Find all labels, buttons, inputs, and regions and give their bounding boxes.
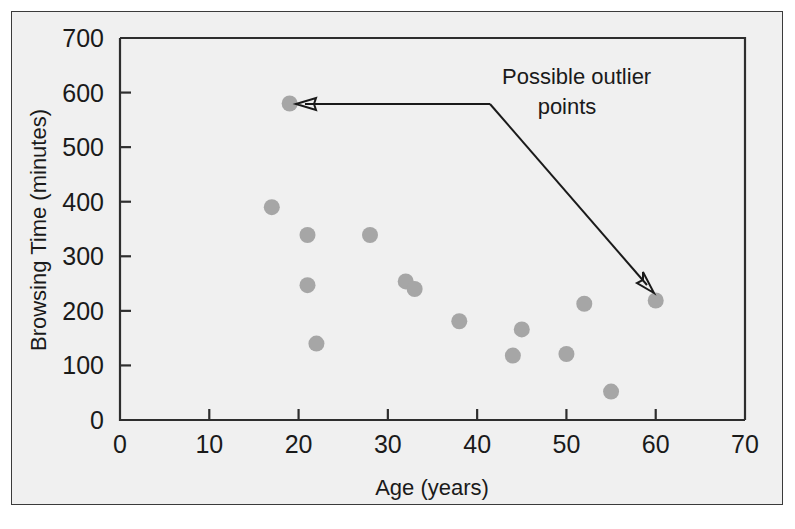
data-points-group [264, 95, 664, 399]
annotation-text-line1: Possible outlier [502, 64, 651, 89]
y-tick-label: 400 [62, 188, 104, 216]
y-axis-tick-marks [120, 93, 131, 366]
x-tick-label: 60 [642, 430, 670, 458]
y-axis-tick-labels: 0100200300400500600700 [62, 24, 104, 434]
x-tick-label: 0 [113, 430, 127, 458]
x-tick-label: 70 [731, 430, 759, 458]
y-tick-label: 0 [90, 406, 104, 434]
y-tick-label: 700 [62, 24, 104, 52]
y-axis-title: Browsing Time (minutes) [26, 109, 51, 351]
y-tick-label: 600 [62, 79, 104, 107]
x-tick-label: 50 [553, 430, 581, 458]
data-point [558, 346, 574, 362]
x-axis-tick-marks [209, 409, 655, 420]
data-point [514, 321, 530, 337]
figure-container: 0100200300400500600700 010203040506070 B… [0, 0, 795, 529]
annotation-leader-lines [296, 98, 654, 293]
x-tick-label: 20 [285, 430, 313, 458]
data-point [576, 296, 592, 312]
data-point [603, 384, 619, 400]
leader-line-to-right-outlier [490, 104, 647, 285]
data-point [264, 199, 280, 215]
data-point [300, 277, 316, 293]
axis-lines [120, 38, 745, 420]
x-tick-label: 10 [195, 430, 223, 458]
y-tick-label: 300 [62, 242, 104, 270]
data-point [407, 281, 423, 297]
annotation-text-line2: points [538, 94, 597, 119]
x-axis-title: Age (years) [375, 475, 489, 500]
y-tick-label: 500 [62, 133, 104, 161]
x-tick-label: 30 [374, 430, 402, 458]
plot-frame-top-right [120, 38, 745, 420]
x-tick-label: 40 [463, 430, 491, 458]
y-tick-label: 200 [62, 297, 104, 325]
data-point [362, 227, 378, 243]
data-point [505, 348, 521, 364]
y-tick-label: 100 [62, 351, 104, 379]
data-point [300, 227, 316, 243]
data-point [451, 313, 467, 329]
data-point [308, 336, 324, 352]
axes-group [120, 38, 745, 420]
x-axis-tick-labels: 010203040506070 [113, 430, 759, 458]
scatter-chart: 0100200300400500600700 010203040506070 B… [0, 0, 795, 529]
